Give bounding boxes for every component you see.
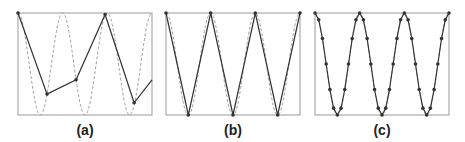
panel-label-c: (c) <box>352 122 412 138</box>
sample-point-marker <box>336 113 340 117</box>
sample-point-marker <box>350 37 354 41</box>
sample-point-marker <box>358 11 362 15</box>
sample-point-marker <box>254 11 258 15</box>
sample-point-marker <box>321 37 325 41</box>
sample-point-marker <box>362 18 366 22</box>
continuous-signal-curve <box>166 13 300 115</box>
sample-point-marker <box>132 101 136 105</box>
sample-point-marker <box>425 113 429 117</box>
continuous-signal-curve <box>315 13 449 115</box>
sample-point-marker <box>417 88 421 92</box>
sample-point-marker <box>317 18 321 22</box>
sample-point-marker <box>313 11 317 15</box>
sample-point-marker <box>440 37 444 41</box>
sample-point-marker <box>365 37 369 41</box>
sample-point-marker <box>339 106 343 110</box>
sampled-signal-line <box>166 13 300 115</box>
sample-point-marker <box>421 106 425 110</box>
sample-point-marker <box>328 88 332 92</box>
sample-point-marker <box>231 113 235 117</box>
sample-point-marker <box>347 62 351 66</box>
sample-point-marker <box>187 113 191 117</box>
sampled-signal-line <box>315 13 449 115</box>
plot-frame-b <box>166 13 300 115</box>
sample-point-marker <box>388 88 392 92</box>
sample-point-marker <box>414 62 418 66</box>
sample-point-marker <box>164 11 168 15</box>
sample-point-marker <box>209 11 213 15</box>
sample-point-marker <box>276 113 280 117</box>
sample-point-marker <box>45 92 49 96</box>
panel-label-b: (b) <box>203 122 263 138</box>
sample-point-marker <box>406 18 410 22</box>
sample-point-marker <box>354 18 358 22</box>
sample-point-marker <box>432 88 436 92</box>
sample-point-marker <box>103 13 107 17</box>
sample-point-marker <box>384 106 388 110</box>
panel-label-a: (a) <box>55 122 115 138</box>
sample-point-marker <box>436 62 440 66</box>
sample-point-marker <box>399 18 403 22</box>
sample-point-marker <box>443 18 447 22</box>
sample-point-marker <box>380 113 384 117</box>
sample-point-marker <box>410 37 414 41</box>
sample-point-marker <box>373 88 377 92</box>
sample-point-marker <box>403 11 407 15</box>
sample-point-marker <box>324 62 328 66</box>
continuous-signal-curve <box>18 13 152 115</box>
sample-point-marker <box>447 11 451 15</box>
sample-point-marker <box>391 62 395 66</box>
sample-point-marker <box>343 88 347 92</box>
sample-point-marker <box>376 106 380 110</box>
aliasing-figure <box>0 0 465 142</box>
sample-point-marker <box>429 106 433 110</box>
sample-point-marker <box>369 62 373 66</box>
sample-point-marker <box>298 11 302 15</box>
sampled-signal-line <box>18 13 152 103</box>
sample-point-marker <box>332 106 336 110</box>
sample-point-marker <box>395 37 399 41</box>
sample-point-marker <box>74 78 78 82</box>
plot-frame-c <box>315 13 449 115</box>
sample-point-marker <box>16 11 20 15</box>
plot-frame-a <box>18 13 152 115</box>
